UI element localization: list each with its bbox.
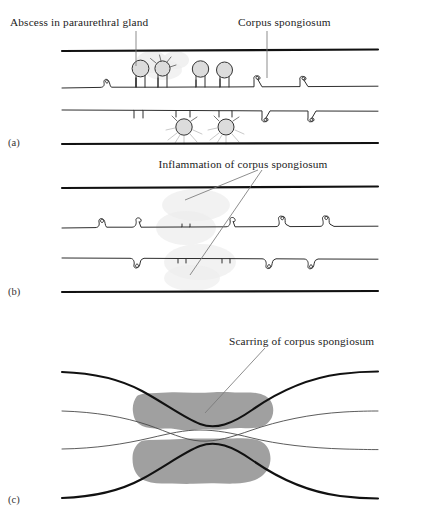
panel-a-gland-6: [208, 116, 244, 144]
label-corpus-spongiosum: Corpus spongiosum: [238, 16, 331, 28]
abscess-bulb-6: [218, 119, 234, 135]
panel-b-inflammation-shading: [156, 189, 236, 291]
abscess-bulb-2: [155, 61, 170, 76]
panel-a-outer-wall-top: [62, 50, 378, 52]
panel-a-outer-wall-bottom: [62, 143, 378, 144]
label-scarring: Scarring of corpus spongiosum: [229, 335, 374, 347]
panel-a-gland-3: [192, 61, 208, 87]
panel-a: (a): [8, 31, 378, 149]
figure-root: (a) Abscess in paraurethral gland Corpus…: [0, 0, 439, 517]
label-inflammation: Inflammation of corpus spongiosum: [158, 158, 327, 170]
panel-a-gland-1: [132, 60, 149, 87]
urethral-stricture-figure: (a) Abscess in paraurethral gland Corpus…: [0, 0, 439, 517]
panel-b-outer-wall-bottom: [62, 291, 378, 292]
panel-a-gland-5: [166, 116, 202, 144]
label-abscess: Abscess in paraurethral gland: [10, 16, 148, 28]
panel-c: (c): [8, 348, 378, 506]
abscess-bulb-5: [176, 119, 192, 135]
panel-letter-c: (c): [8, 494, 20, 506]
abscess-bulb-4: [217, 62, 233, 78]
panel-letter-a: (a): [8, 137, 20, 149]
panel-b-mucosa-upper: [62, 216, 378, 228]
panel-a-gland-4: [217, 62, 233, 87]
panel-letter-b: (b): [8, 286, 21, 298]
panel-b: (b): [8, 170, 378, 298]
abscess-bulb-3: [192, 61, 208, 77]
panel-a-mucosa-lower: [62, 110, 378, 122]
abscess-bulb-1: [132, 60, 149, 77]
panel-b-outer-wall-top: [62, 187, 378, 189]
